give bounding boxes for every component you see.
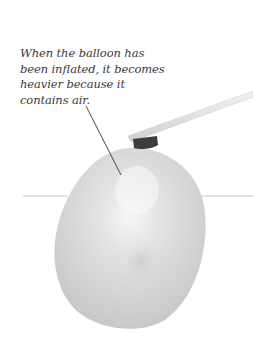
balloon-illustration xyxy=(0,0,253,352)
balloon-icon xyxy=(54,148,205,329)
stick-icon xyxy=(128,91,253,142)
